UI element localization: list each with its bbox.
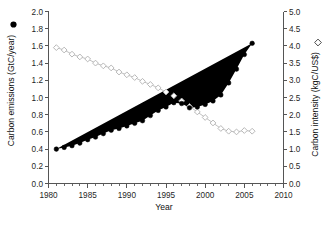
data-point-carbon-intensity: [147, 82, 153, 88]
y-tick-label-left: 0.8: [32, 111, 44, 120]
data-point-carbon-intensity: [140, 78, 146, 84]
data-point-carbon-emissions: [164, 105, 169, 110]
data-point-carbon-intensity: [69, 51, 75, 57]
data-point-carbon-intensity: [93, 60, 99, 66]
data-point-carbon-intensity: [132, 75, 138, 81]
chart-figure: 0.00.20.40.60.81.01.21.41.61.82.00.00.51…: [0, 0, 328, 230]
plot-area: 0.00.20.40.60.81.01.21.41.61.82.00.00.51…: [6, 8, 322, 213]
y-tick-label-right: 1.5: [289, 128, 301, 137]
y-tick-label-left: 0.4: [32, 145, 44, 154]
data-point-carbon-emissions: [156, 108, 161, 113]
x-tick-label: 2005: [235, 191, 254, 200]
data-point-carbon-intensity: [61, 47, 67, 53]
data-point-carbon-intensity: [194, 109, 200, 115]
data-point-carbon-emissions: [242, 52, 247, 57]
data-point-carbon-intensity: [124, 72, 130, 78]
y-tick-label-right: 2.5: [289, 94, 301, 103]
x-tick-label: 2010: [274, 191, 293, 200]
data-point-carbon-emissions: [78, 141, 83, 146]
data-point-carbon-intensity: [218, 126, 224, 132]
y-tick-label-right: 0.5: [289, 162, 301, 171]
data-point-carbon-emissions: [195, 105, 200, 110]
y-tick-label-left: 0.6: [32, 128, 44, 137]
y-axis-title-left: Carbon emissions (GtC/year): [6, 35, 16, 146]
data-point-carbon-intensity: [241, 128, 247, 134]
data-point-carbon-intensity: [202, 115, 208, 121]
y-tick-label-right: 0.0: [289, 180, 301, 189]
y-tick-label-right: 2.0: [289, 111, 301, 120]
data-point-carbon-emissions: [109, 128, 114, 133]
data-point-carbon-emissions: [179, 101, 184, 106]
x-axis-title: Year: [155, 202, 173, 212]
data-point-carbon-intensity: [116, 69, 122, 75]
data-point-carbon-intensity: [234, 129, 240, 135]
data-point-carbon-intensity: [85, 56, 91, 62]
data-point-carbon-intensity: [108, 65, 114, 71]
data-point-carbon-emissions: [54, 147, 59, 152]
data-point-carbon-emissions: [85, 137, 90, 142]
data-point-carbon-emissions: [226, 81, 231, 86]
data-point-carbon-emissions: [70, 143, 75, 148]
y-tick-label-right: 3.5: [289, 59, 301, 68]
data-point-carbon-emissions: [250, 41, 255, 46]
data-point-carbon-emissions: [211, 99, 216, 104]
data-point-carbon-intensity: [77, 54, 83, 60]
y-tick-label-right: 4.0: [289, 42, 301, 51]
y-tick-label-left: 1.0: [32, 94, 44, 103]
x-tick-label: 1980: [39, 191, 58, 200]
data-point-carbon-emissions: [187, 106, 192, 111]
y-tick-label-right: 3.0: [289, 76, 301, 85]
y-tick-label-left: 1.4: [32, 59, 44, 68]
y-tick-label-right: 1.0: [289, 145, 301, 154]
data-point-carbon-emissions: [101, 131, 106, 136]
data-point-carbon-intensity: [155, 85, 161, 91]
x-tick-label: 1990: [118, 191, 137, 200]
data-point-carbon-emissions: [234, 67, 239, 72]
x-tick-label: 2000: [196, 191, 215, 200]
y-tick-label-left: 0.0: [32, 180, 44, 189]
data-point-carbon-emissions: [62, 145, 67, 150]
y-tick-label-left: 1.2: [32, 76, 44, 85]
carbon-emissions-intensity-chart: 0.00.20.40.60.81.01.21.41.61.82.00.00.51…: [0, 0, 328, 230]
x-tick-label: 1985: [79, 191, 98, 200]
data-point-carbon-intensity: [226, 128, 232, 134]
y-axis-title-right: Carbon intensity (kgC/US$): [310, 52, 320, 157]
data-point-carbon-intensity: [100, 63, 106, 69]
data-point-carbon-emissions: [148, 113, 153, 118]
data-point-carbon-emissions: [93, 135, 98, 140]
data-point-carbon-emissions: [132, 121, 137, 126]
y-tick-label-left: 2.0: [32, 8, 44, 17]
legend-filled-circle-icon: [10, 21, 16, 27]
y-tick-label-right: 4.5: [289, 25, 301, 34]
y-tick-label-left: 1.8: [32, 25, 44, 34]
data-point-carbon-emissions: [219, 93, 224, 98]
y-tick-label-left: 1.6: [32, 42, 44, 51]
y-tick-label-right: 5.0: [289, 8, 301, 17]
data-point-carbon-emissions: [172, 100, 177, 105]
data-point-carbon-emissions: [125, 124, 130, 129]
data-point-carbon-intensity: [249, 128, 255, 134]
data-point-carbon-intensity: [210, 120, 216, 126]
x-tick-label: 1995: [157, 191, 176, 200]
data-point-carbon-emissions: [140, 118, 145, 123]
y-tick-label-left: 0.2: [32, 162, 44, 171]
data-point-carbon-emissions: [203, 102, 208, 107]
data-point-carbon-intensity: [53, 45, 59, 51]
legend-open-diamond-icon: [315, 39, 322, 46]
data-point-carbon-emissions: [117, 126, 122, 131]
